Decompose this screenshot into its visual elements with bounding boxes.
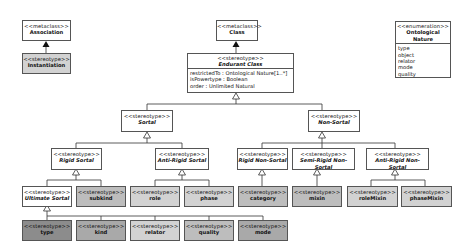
ontological-nature-enumeration-box[interactable]: <<enumeration>> Ontological Nature type … <box>395 21 451 78</box>
stereotype-label: <<stereotype>> <box>188 54 293 61</box>
class-name: relator <box>131 229 179 235</box>
class-metaclass-box[interactable]: <<metaclass>> Class <box>216 20 258 41</box>
stereotype-label: <<stereotype>> <box>239 187 287 195</box>
class-name: mixin <box>293 195 341 201</box>
type-box[interactable]: <<stereotype>> type <box>22 220 72 241</box>
class-name: mode <box>239 229 287 235</box>
stereotype-label: <<stereotype>> <box>23 54 70 62</box>
class-name: quality <box>185 229 233 235</box>
stereotype-label: <<stereotype>> <box>293 149 354 157</box>
instantiation-stereotype-box[interactable]: <<stereotype>> Instantiation <box>22 53 71 74</box>
stereotype-label: <<metaclass>> <box>217 21 257 29</box>
attribute-isPowertype: isPowertype : Boolean <box>190 76 291 83</box>
class-name: subkind <box>77 195 125 201</box>
stereotype-label: <<stereotype>> <box>348 187 397 195</box>
class-name: Sortal <box>122 119 172 125</box>
class-name: kind <box>77 229 125 235</box>
enumeration-literals: type object relator mode quality <box>396 44 450 78</box>
class-name: Semi-Rigid Non-Sortal <box>293 157 354 170</box>
enumeration-header: <<enumeration>> Ontological Nature <box>396 22 450 44</box>
attribute-compartment: restrictedTo : Ontological Nature[1..*] … <box>188 68 293 91</box>
stereotype-label: <<stereotype>> <box>77 187 125 195</box>
phase-box[interactable]: <<stereotype>> phase <box>184 186 234 207</box>
class-name: Non-Sortal <box>309 119 359 125</box>
literal-quality: quality <box>398 71 448 77</box>
ultimate-sortal-box[interactable]: <<stereotype>> Ultimate Sortal <box>22 186 72 207</box>
sortal-box[interactable]: <<stereotype>> Sortal <box>121 110 173 132</box>
class-name: type <box>23 229 71 235</box>
quality-box[interactable]: <<stereotype>> quality <box>184 220 234 241</box>
class-name: role <box>131 195 179 201</box>
attribute-order: order : Unlimited Natural <box>190 83 291 90</box>
attribute-restrictedTo: restrictedTo : Ontological Nature[1..*] <box>190 70 291 77</box>
phasemixin-box[interactable]: <<stereotype>> phaseMixin <box>401 186 452 207</box>
class-name: roleMixin <box>348 195 397 201</box>
class-name: phaseMixin <box>402 195 451 201</box>
non-sortal-box[interactable]: <<stereotype>> Non-Sortal <box>308 110 360 132</box>
stereotype-label: <<stereotype>> <box>367 149 428 157</box>
class-name: Ultimate Sortal <box>23 195 71 201</box>
stereotype-label: <<stereotype>> <box>23 187 71 195</box>
stereotype-label: <<stereotype>> <box>122 111 172 119</box>
class-name: category <box>239 195 287 201</box>
stereotype-label: <<stereotype>> <box>131 187 179 195</box>
stereotype-label: <<stereotype>> <box>131 221 179 229</box>
stereotype-label: <<metaclass>> <box>23 21 70 29</box>
class-name: Anti-Rigid Sortal <box>156 157 208 163</box>
stereotype-label: <<stereotype>> <box>77 221 125 229</box>
class-name: Instantiation <box>23 62 70 68</box>
subkind-box[interactable]: <<stereotype>> subkind <box>76 186 126 207</box>
kind-box[interactable]: <<stereotype>> kind <box>76 220 126 241</box>
stereotype-label: <<stereotype>> <box>293 187 341 195</box>
rolemixin-box[interactable]: <<stereotype>> roleMixin <box>347 186 398 207</box>
class-name: Rigid Non-Sortal <box>238 157 287 163</box>
stereotype-label: <<stereotype>> <box>156 149 208 157</box>
role-box[interactable]: <<stereotype>> role <box>130 186 180 207</box>
mixin-box[interactable]: <<stereotype>> mixin <box>292 186 342 207</box>
class-name: Rigid Sortal <box>52 157 101 163</box>
stereotype-label: <<stereotype>> <box>239 221 287 229</box>
endurant-class-box[interactable]: <<stereotype>> Endurant Class restricted… <box>187 53 294 93</box>
rigid-sortal-box[interactable]: <<stereotype>> Rigid Sortal <box>51 148 102 170</box>
class-name: Class <box>217 29 257 35</box>
class-name: Association <box>23 29 70 35</box>
semi-rigid-non-sortal-box[interactable]: <<stereotype>> Semi-Rigid Non-Sortal <box>292 148 355 170</box>
anti-rigid-non-sortal-box[interactable]: <<stereotype>> Anti-Rigid Non-Sortal <box>366 148 429 170</box>
stereotype-label: <<stereotype>> <box>185 221 233 229</box>
relator-box[interactable]: <<stereotype>> relator <box>130 220 180 241</box>
association-metaclass-box[interactable]: <<metaclass>> Association <box>22 20 71 41</box>
stereotype-label: <<stereotype>> <box>52 149 101 157</box>
rigid-non-sortal-box[interactable]: <<stereotype>> Rigid Non-Sortal <box>237 148 288 170</box>
class-name: phase <box>185 195 233 201</box>
stereotype-label: <<stereotype>> <box>309 111 359 119</box>
stereotype-label: <<stereotype>> <box>185 187 233 195</box>
stereotype-label: <<stereotype>> <box>238 149 287 157</box>
stereotype-label: <<stereotype>> <box>23 221 71 229</box>
enumeration-name: Ontological Nature <box>396 29 450 42</box>
stereotype-label: <<enumeration>> <box>396 22 450 29</box>
category-box[interactable]: <<stereotype>> category <box>238 186 288 207</box>
anti-rigid-sortal-box[interactable]: <<stereotype>> Anti-Rigid Sortal <box>155 148 209 170</box>
stereotype-label: <<stereotype>> <box>402 187 451 195</box>
mode-box[interactable]: <<stereotype>> mode <box>238 220 288 241</box>
class-name: Anti-Rigid Non-Sortal <box>367 157 428 170</box>
